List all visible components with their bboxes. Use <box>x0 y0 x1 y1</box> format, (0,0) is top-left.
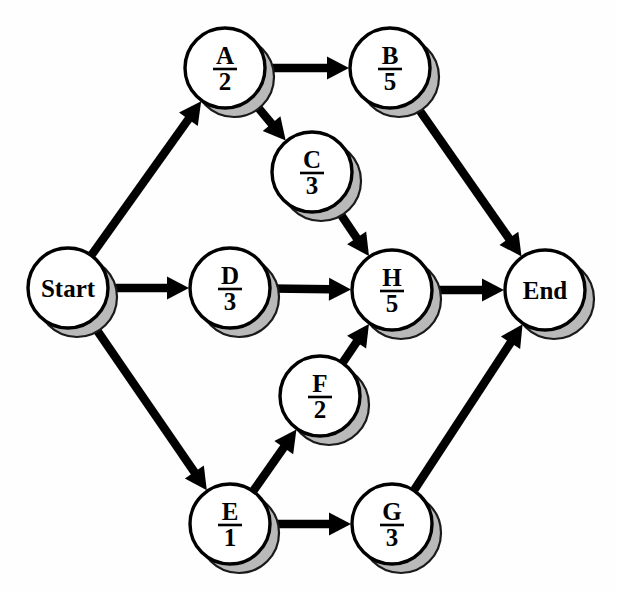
node-start[interactable]: Start <box>28 248 117 337</box>
node-end[interactable]: End <box>505 250 594 339</box>
node-duration: 3 <box>306 172 319 199</box>
edge-F-to-H <box>343 324 369 362</box>
arrowhead <box>167 277 189 300</box>
edge-E-to-F <box>254 430 297 491</box>
node-duration: 5 <box>386 290 399 317</box>
node-duration: 2 <box>219 68 232 95</box>
node-label: End <box>523 277 568 304</box>
node-label: H <box>382 264 402 291</box>
node-duration: 3 <box>386 524 399 551</box>
node-label: F <box>312 370 327 397</box>
node-duration: 1 <box>224 524 237 551</box>
node-C[interactable]: C3 <box>272 132 361 221</box>
network-diagram: StartA2B5C3D3H5F2E1G3End <box>0 0 617 591</box>
node-layer: StartA2B5C3D3H5F2E1G3End <box>28 28 594 573</box>
arrowhead <box>329 278 351 301</box>
node-D[interactable]: D3 <box>190 248 279 337</box>
edge-E-to-G <box>271 513 351 536</box>
node-label: C <box>303 146 321 173</box>
node-label: Start <box>41 275 96 302</box>
edge-start-to-D <box>109 277 189 300</box>
edge-start-to-E <box>91 322 207 490</box>
edge-G-to-end <box>414 324 522 489</box>
network-diagram-canvas: StartA2B5C3D3H5F2E1G3End <box>0 0 617 591</box>
node-B[interactable]: B5 <box>350 28 439 117</box>
node-label: E <box>222 498 239 525</box>
edge-D-to-H <box>271 278 351 301</box>
arrowhead <box>329 513 351 536</box>
node-label: G <box>382 498 401 525</box>
edge-start-to-A <box>92 101 201 254</box>
edge-A-to-B <box>266 57 349 80</box>
node-label: B <box>382 42 399 69</box>
node-E[interactable]: E1 <box>190 484 279 573</box>
edge-B-to-end <box>413 102 521 257</box>
node-label: D <box>221 262 239 289</box>
arrowhead <box>482 279 504 302</box>
edge-H-to-end <box>433 279 504 302</box>
node-H[interactable]: H5 <box>352 250 441 339</box>
arrowhead <box>327 57 349 80</box>
node-duration: 3 <box>224 288 237 315</box>
node-duration: 2 <box>314 396 327 423</box>
node-G[interactable]: G3 <box>352 484 441 573</box>
node-duration: 5 <box>384 68 397 95</box>
node-label: A <box>216 42 234 69</box>
edge-layer <box>91 57 522 536</box>
